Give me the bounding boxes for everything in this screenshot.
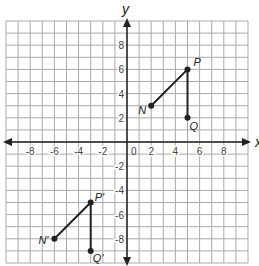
point-label-Q-prime: Q' <box>93 252 105 264</box>
coordinate-plane: xy0-8-6-4-224688642-2-4-6-8PNQP'N'Q' <box>0 0 259 266</box>
point-P <box>185 66 191 72</box>
x-tick-label: 6 <box>197 146 203 157</box>
y-tick-label: 8 <box>118 40 124 51</box>
point-label-N-prime: N' <box>38 234 49 246</box>
x-tick-label: -4 <box>74 146 83 157</box>
x-axis-label: x <box>254 134 259 150</box>
y-tick-label: 2 <box>118 113 124 124</box>
point-label-N: N <box>138 104 146 116</box>
point-label-P-prime: P' <box>95 191 105 203</box>
origin-label: 0 <box>131 146 137 157</box>
segment-N-primeP-prime <box>54 203 90 239</box>
y-tick-label: -6 <box>115 210 124 221</box>
x-tick-label: 2 <box>148 146 154 157</box>
x-tick-label: -6 <box>50 146 59 157</box>
x-tick-label: 8 <box>221 146 227 157</box>
y-tick-label: -2 <box>115 161 124 172</box>
point-N <box>148 103 154 109</box>
y-axis-label: y <box>121 1 130 17</box>
x-tick-label: -2 <box>98 146 107 157</box>
x-axis-arrow-left-icon <box>3 138 12 146</box>
y-tick-label: 6 <box>118 64 124 75</box>
x-tick-label: -8 <box>26 146 35 157</box>
x-tick-label: 4 <box>173 146 179 157</box>
point-N-prime <box>51 236 57 242</box>
y-axis-arrow-down-icon <box>123 257 131 266</box>
point-label-P: P <box>194 56 202 68</box>
point-label-Q: Q <box>190 120 199 132</box>
y-tick-label: 4 <box>118 89 124 100</box>
x-axis-arrow-right-icon <box>242 138 251 146</box>
point-P-prime <box>88 200 94 206</box>
y-tick-label: -8 <box>115 234 124 245</box>
segment-NP <box>151 69 187 105</box>
y-tick-label: -4 <box>115 185 124 196</box>
y-axis-arrow-up-icon <box>123 18 131 27</box>
